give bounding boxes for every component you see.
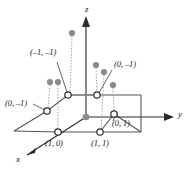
open-circle-upper-left [65,92,71,98]
filled-dot-e [110,82,116,88]
figure-3d-lattice-diagram: (–1, –1) (0, –1) (0, –1) (0, 1) (1, 0) (… [0,0,192,176]
open-circles-group [44,92,117,135]
base-plane-front-edge [14,131,141,132]
open-circle-mid-left [44,108,50,114]
axis-z-arrowhead [82,16,90,27]
axis-x-line [27,117,86,155]
drop-line-b [48,85,50,109]
drop-line-e [113,88,114,112]
filled-dot-f [55,79,61,85]
filled-dot-b [47,79,53,85]
drop-line-d [101,75,104,130]
filled-dots-group [47,30,116,120]
axis-y [86,113,174,121]
axis-label-z: z [85,5,89,14]
diagram-canvas [0,0,192,176]
axis-label-x: x [16,155,20,164]
point-label-neg1-neg1: (–1, –1) [30,48,56,57]
axis-x [27,117,86,155]
drop-line-a [70,36,72,93]
filled-dot-d [101,69,107,75]
point-label-zero-one: (0, 1) [112,119,130,128]
open-circle-lower-left [55,129,61,135]
point-label-zero-neg1-left: (0, –1) [5,99,27,108]
open-circle-upper-right [94,92,100,98]
open-circle-mid-right [111,111,117,117]
open-circle-lower-right [97,129,103,135]
filled-dot-c [93,62,99,68]
filled-dot-a [69,30,75,36]
axis-y-arrowhead [164,113,174,121]
drop-line-c [96,68,97,93]
axis-label-y: y [178,110,182,119]
leader-line-zero-neg1-left [33,104,45,110]
filled-dot-origin [83,114,90,121]
point-label-zero-neg1-right: (0, –1) [114,60,136,69]
point-label-one-zero: (1, 0) [45,139,63,148]
leader-line-neg1-neg1 [57,62,67,92]
point-label-one-one: (1, 1) [91,139,109,148]
